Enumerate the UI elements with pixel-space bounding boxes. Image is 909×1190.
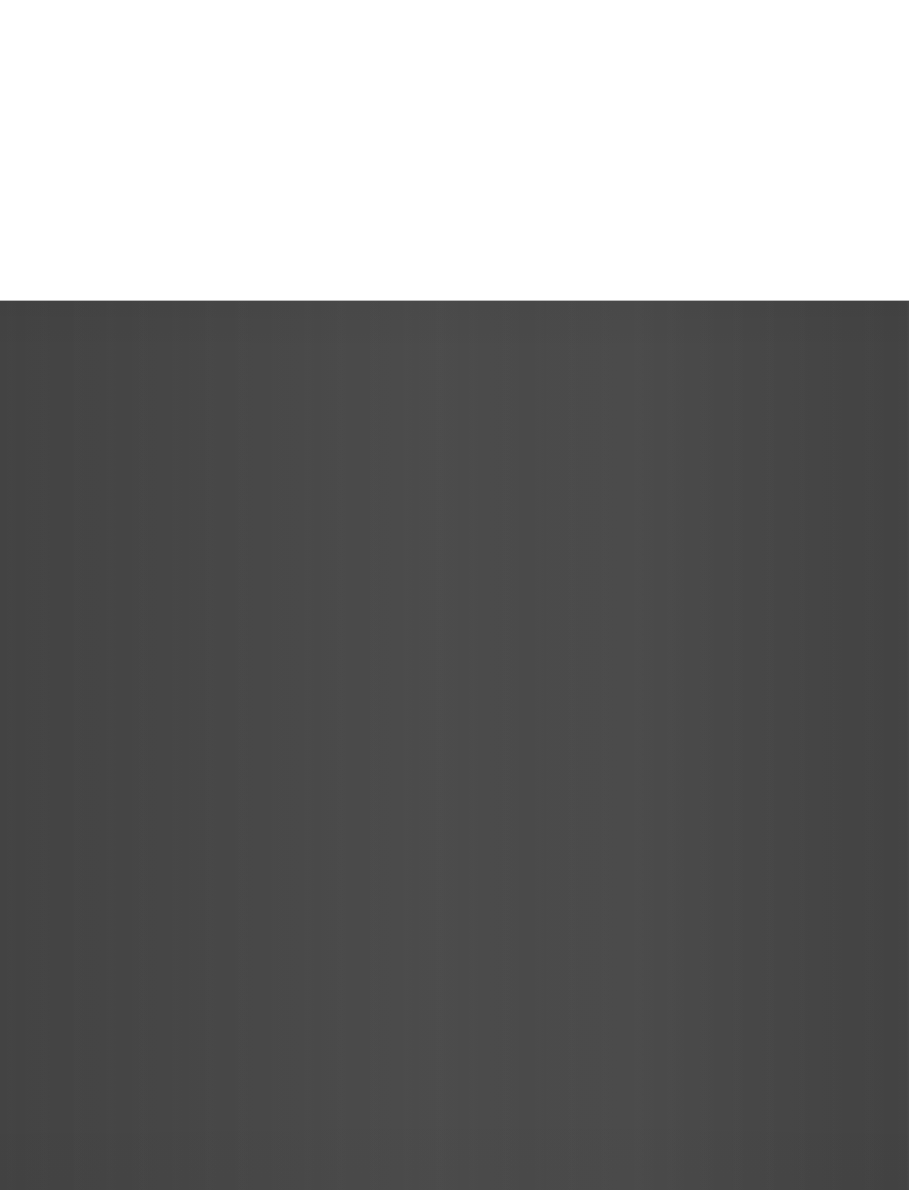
content-panel-empty-label: [0, 301, 1, 302]
app-window: [0, 0, 909, 1190]
content-horizontal-gradient: [0, 301, 909, 1190]
top-blank-panel: [0, 0, 909, 301]
top-panel-empty-label: [0, 0, 1, 1]
content-vertical-banding: [0, 301, 909, 1190]
content-blank-panel: [0, 301, 909, 1190]
content-vertical-gradient: [0, 301, 909, 1190]
